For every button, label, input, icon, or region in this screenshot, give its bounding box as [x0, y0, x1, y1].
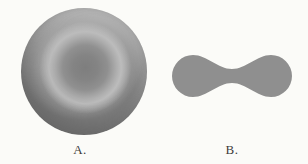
red-blood-cell-top-view-icon [21, 8, 147, 135]
red-blood-cell-cross-section-icon [170, 52, 294, 100]
dumbbell-shape [172, 55, 292, 97]
panel-a-label: A. [62, 142, 98, 158]
red-blood-cell-figure: A. B. [0, 0, 308, 164]
panel-b-label: B. [214, 142, 250, 158]
